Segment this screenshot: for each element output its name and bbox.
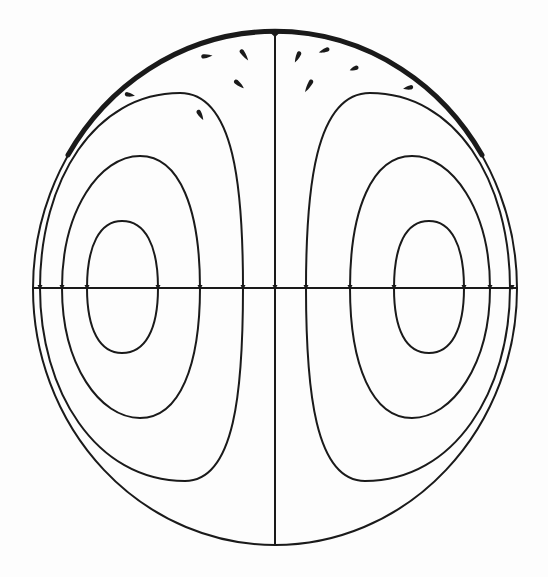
streamline-diagram [0, 0, 548, 577]
diagram-canvas [0, 0, 548, 577]
flow-droplet-icon [233, 79, 245, 90]
flow-droplet-icon [239, 48, 250, 61]
flow-droplet-icon [196, 109, 205, 121]
flow-droplet-icon [124, 92, 135, 98]
flow-droplet-icon [403, 85, 414, 91]
flow-droplet-icon [303, 79, 314, 94]
flow-droplet-icon [201, 53, 213, 58]
flow-droplet-icon [293, 50, 302, 63]
flow-droplet-icon [318, 47, 330, 55]
flow-droplet-icon [349, 65, 359, 72]
